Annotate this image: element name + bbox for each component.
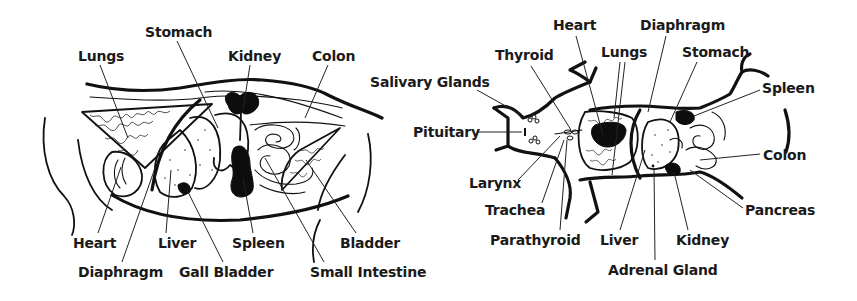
label-heart-ventral: Heart (553, 17, 596, 33)
ventral-view-drawing (477, 36, 789, 260)
lateral-view-drawing (44, 41, 382, 262)
label-adrenal-gland-ventral: Adrenal Gland (608, 262, 717, 278)
label-salivary-glands-ventral: Salivary Glands (370, 74, 490, 90)
label-lungs-ventral: Lungs (601, 44, 647, 60)
label-pituitary-ventral: Pituitary (413, 124, 480, 140)
label-colon-lateral: Colon (312, 48, 355, 64)
label-small-intestine-lateral: Small Intestine (310, 264, 426, 280)
label-bladder-lateral: Bladder (340, 235, 400, 251)
label-thyroid-ventral: Thyroid (495, 47, 554, 63)
label-spleen-lateral: Spleen (232, 235, 285, 251)
label-kidney-ventral: Kidney (676, 232, 729, 248)
label-heart-lateral: Heart (73, 235, 116, 251)
label-liver-lateral: Liver (158, 235, 196, 251)
label-colon-ventral: Colon (763, 147, 806, 163)
label-kidney-lateral: Kidney (228, 48, 281, 64)
label-liver-ventral: Liver (600, 232, 638, 248)
label-lungs-lateral: Lungs (78, 48, 124, 64)
anatomy-figure: Lungs Stomach Kidney Colon Heart Liver S… (0, 0, 857, 301)
label-parathyroid-ventral: Parathyroid (490, 232, 581, 248)
label-diaphragm-lateral: Diaphragm (78, 264, 163, 280)
label-diaphragm-ventral: Diaphragm (640, 17, 725, 33)
label-larynx-ventral: Larynx (469, 175, 521, 191)
label-stomach-lateral: Stomach (145, 24, 212, 40)
label-stomach-ventral: Stomach (682, 44, 749, 60)
label-spleen-ventral: Spleen (762, 80, 815, 96)
label-trachea-ventral: Trachea (485, 202, 545, 218)
label-gall-bladder-lateral: Gall Bladder (179, 264, 273, 280)
label-pancreas-ventral: Pancreas (745, 202, 815, 218)
